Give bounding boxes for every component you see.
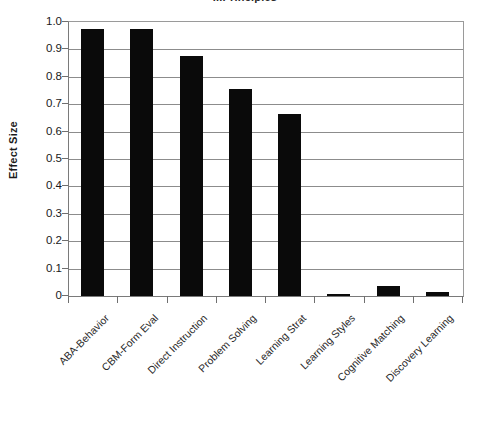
y-tick-label: 0.3 (22, 207, 62, 219)
y-tick-label: 0.4 (22, 179, 62, 191)
bar (81, 29, 104, 296)
y-tick-label: 0.6 (22, 125, 62, 137)
bar (130, 29, 153, 296)
x-tick-mark (117, 296, 118, 303)
x-tick-mark (265, 296, 266, 303)
x-tick-mark (314, 296, 315, 303)
y-tick-label: 0.7 (22, 97, 62, 109)
bars-layer (68, 21, 462, 296)
y-tick-label: 0.9 (22, 42, 62, 54)
y-tick-label: 0.2 (22, 234, 62, 246)
y-tick-label: 0.8 (22, 70, 62, 82)
x-tick-mark (462, 296, 463, 303)
x-axis-category-label: ABA-Behavior (0, 312, 111, 421)
x-tick-mark (68, 296, 69, 303)
y-tick-label: 0.1 (22, 262, 62, 274)
chart-title: ...Principles (0, 0, 490, 3)
bar (180, 56, 203, 296)
y-axis-title-text: Effect Size (7, 121, 19, 179)
y-tick-label: 0.5 (22, 152, 62, 164)
y-tick-label: 1.0 (22, 15, 62, 27)
x-tick-mark (216, 296, 217, 303)
bar (327, 294, 350, 296)
bar (377, 286, 400, 296)
x-tick-mark (167, 296, 168, 303)
bar (426, 292, 449, 296)
y-tick-label: 0 (22, 289, 62, 301)
x-tick-mark (413, 296, 414, 303)
x-tick-mark (364, 296, 365, 303)
bar (278, 114, 301, 296)
y-axis-title: Effect Size (3, 0, 23, 300)
bar (229, 89, 252, 296)
